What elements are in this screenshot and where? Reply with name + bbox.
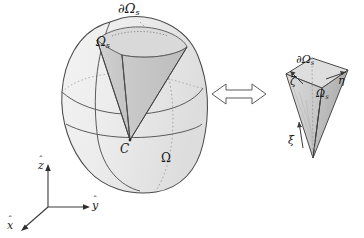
figure-vector-graphics — [0, 0, 364, 238]
label-pyramid-sector: Ωs — [316, 88, 329, 100]
label-blob-domain: Ω — [161, 152, 171, 164]
axis-z-head — [45, 164, 51, 171]
label-blob-surface-patch: ∂Ωs — [118, 2, 140, 17]
label-blob-sector: Ωs — [96, 36, 110, 49]
label-axis-z-hat: ˆz — [38, 160, 44, 171]
axis-y-head — [83, 204, 90, 210]
label-center-point: C — [120, 143, 129, 155]
mapping-arrow-shape — [212, 84, 266, 104]
axis-x-shaft — [24, 207, 48, 228]
center-point-c — [129, 139, 132, 142]
label-axis-xi: ξ — [288, 135, 294, 146]
figure-canvas: ∂Ωs Ωs C Ω ∂Ωs Ωs ζ η ξ ˆz ˆy ˆx — [0, 0, 364, 238]
label-axis-zeta: ζ — [290, 76, 296, 87]
label-axis-x-hat: ˆx — [7, 220, 13, 231]
double-arrow-icon — [212, 84, 266, 104]
label-pyramid-surface-patch: ∂Ωs — [296, 54, 314, 66]
reference-pyramid-shape — [286, 58, 348, 158]
global-axes-triad — [21, 164, 90, 231]
label-axis-y-hat: ˆy — [92, 200, 98, 211]
label-axis-eta: η — [338, 75, 345, 86]
